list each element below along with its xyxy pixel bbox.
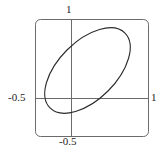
tick-label-left: -0.5 [8, 92, 25, 103]
tick-label-top: 1 [66, 4, 72, 15]
ellipse-curve [30, 13, 146, 129]
ellipse-figure: 1 -0.5 1 -0.5 [0, 0, 162, 152]
plot-canvas [0, 0, 162, 152]
tick-label-right: 1 [151, 92, 157, 103]
plot-frame [36, 20, 149, 137]
tick-label-bottom: -0.5 [59, 136, 76, 147]
